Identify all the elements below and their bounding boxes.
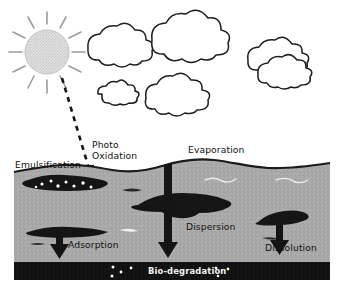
cloud-icon [145, 73, 209, 116]
cloud-group [88, 10, 312, 116]
cloud-icon [88, 23, 153, 67]
label-photo-oxidation-line2: Oxidation [92, 150, 137, 161]
figure-canvas: Emulsification PhotoOxidation Evaporatio… [0, 0, 342, 296]
label-dissolution: Dissolution [265, 243, 317, 254]
label-adsorption: Adsorption [68, 240, 119, 251]
cloud-icon [98, 80, 139, 105]
label-emulsification: Emulsification [15, 160, 81, 171]
label-photo-oxidation: PhotoOxidation [92, 140, 137, 161]
label-photo-oxidation-line1: Photo [92, 139, 119, 150]
label-dispersion: Dispersion [186, 222, 235, 233]
photo-oxidation-dashed-arrow [62, 78, 94, 172]
label-biodegradation: Bio-degradation [148, 266, 226, 277]
cut-off-caption [0, 288, 342, 296]
sun-icon [9, 12, 85, 93]
cloud-icon [152, 10, 230, 62]
label-evaporation: Evaporation [188, 145, 244, 156]
